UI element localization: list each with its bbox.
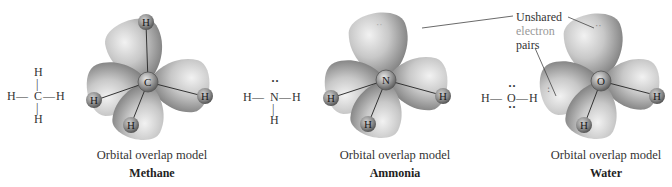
leader-line-ammonia (422, 16, 513, 28)
leader-line-water-top (568, 17, 594, 28)
leader-line-water-side (535, 48, 556, 96)
annotation-leader-lines (0, 0, 672, 187)
